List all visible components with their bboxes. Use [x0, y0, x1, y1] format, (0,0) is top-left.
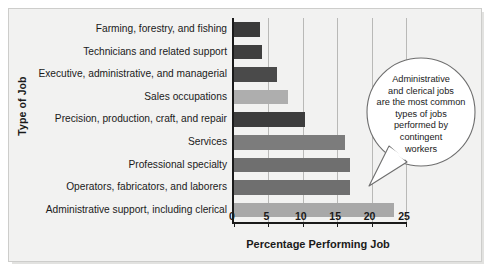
x-axis-tick: [372, 222, 373, 227]
bar: [234, 112, 305, 127]
category-label: Sales occupations: [144, 86, 227, 109]
x-axis-tick-label: 20: [358, 210, 382, 222]
x-axis-tick-label: 5: [254, 210, 278, 222]
x-axis-tick: [337, 222, 338, 227]
bar: [234, 45, 262, 60]
x-axis-tick: [234, 222, 235, 227]
bar: [234, 22, 260, 37]
category-label: Operators, fabricators, and laborers: [66, 176, 227, 199]
annotation-line: and clerical jobs: [375, 86, 467, 98]
annotation-line: performed by: [375, 120, 467, 132]
category-label: Technicians and related support: [83, 41, 227, 64]
annotation-text: Administrativeand clerical jobsare the m…: [375, 74, 467, 155]
category-label: Executive, administrative, and manageria…: [38, 63, 227, 86]
category-label: Professional specialty: [128, 154, 227, 177]
x-axis-tick-label: 15: [323, 210, 347, 222]
bar: [234, 180, 350, 195]
x-axis-tick: [406, 222, 407, 227]
y-axis-title: Type of Job: [16, 66, 28, 146]
category-label: Administrative support, including cleric…: [46, 199, 227, 222]
x-axis-tick-label: 10: [289, 210, 313, 222]
bar: [234, 158, 350, 173]
annotation-line: are the most common: [375, 97, 467, 109]
annotation-line: workers: [375, 144, 467, 156]
category-label: Services: [188, 131, 227, 154]
bar: [234, 67, 277, 82]
category-label: Precision, production, craft, and repair: [55, 108, 227, 131]
annotation-line: Administrative: [375, 74, 467, 86]
bar: [234, 90, 288, 105]
annotation-line: types of jobs: [375, 109, 467, 121]
x-axis-tick: [303, 222, 304, 227]
category-label: Farming, forestry, and fishing: [96, 18, 227, 41]
x-axis-tick: [268, 222, 269, 227]
annotation-line: contingent: [375, 132, 467, 144]
x-axis-tick-label: 0: [220, 210, 244, 222]
x-axis-title: Percentage Performing Job: [232, 238, 404, 250]
chart-figure: Type of Job Farming, forestry, and fishi…: [0, 0, 502, 275]
x-axis-tick-label: 25: [392, 210, 416, 222]
category-label-list: Farming, forestry, and fishingTechnician…: [38, 18, 230, 222]
annotation-callout: Administrativeand clerical jobsare the m…: [367, 58, 475, 166]
bar: [234, 135, 345, 150]
bar-row: [234, 18, 406, 41]
